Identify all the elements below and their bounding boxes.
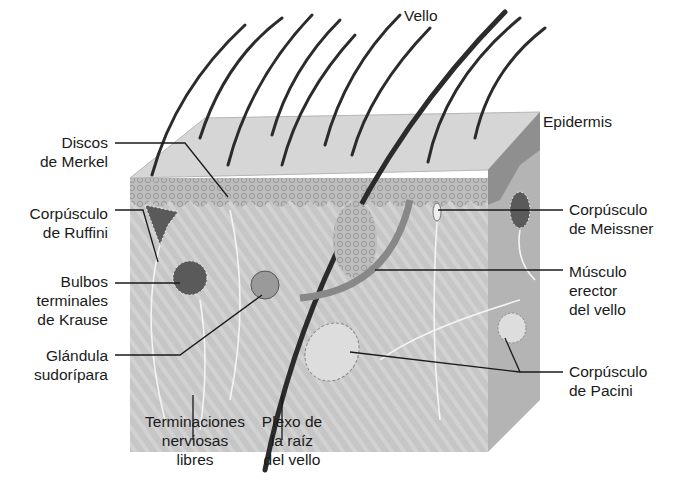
label-line: Plexo de <box>248 412 336 431</box>
skin-diagram <box>0 0 673 484</box>
label-line: Corpúsculo <box>569 362 647 381</box>
meissner-corpuscle-front <box>433 203 441 221</box>
label-pacini: Corpúsculo de Pacini <box>569 362 647 400</box>
label-line: de Meissner <box>569 219 653 238</box>
label-line: Músculo <box>569 262 627 281</box>
label-line: de Pacini <box>569 381 647 400</box>
krause-bulb <box>173 261 207 295</box>
label-musculo: Músculo erector del vello <box>569 262 627 319</box>
label-line: del vello <box>569 300 627 319</box>
label-line: Discos <box>0 133 108 152</box>
label-merkel: Discos de Merkel <box>0 133 108 171</box>
label-line: Vello <box>404 6 438 25</box>
label-line: de Ruffini <box>0 223 108 242</box>
label-line: Corpúsculo <box>0 204 108 223</box>
label-ruffini: Corpúsculo de Ruffini <box>0 204 108 242</box>
label-meissner: Corpúsculo de Meissner <box>569 200 653 238</box>
label-epidermis: Epidermis <box>543 112 612 131</box>
label-line: de Merkel <box>0 152 108 171</box>
label-line: sudorípara <box>0 365 108 384</box>
label-line: la raíz <box>248 431 336 450</box>
label-line: Glándula <box>0 346 108 365</box>
label-krause: Bulbos terminales de Krause <box>0 272 108 329</box>
label-line: terminales <box>0 291 108 310</box>
label-line: Bulbos <box>0 272 108 291</box>
label-line: erector <box>569 281 627 300</box>
label-plexo: Plexo de la raíz del vello <box>248 412 336 469</box>
label-vello: Vello <box>404 6 438 25</box>
sweat-gland <box>251 271 279 299</box>
label-line: Epidermis <box>543 112 612 131</box>
pacini-corpuscle-side <box>498 313 526 343</box>
label-line: de Krause <box>0 310 108 329</box>
label-line: Corpúsculo <box>569 200 653 219</box>
label-sudoripara: Glándula sudorípara <box>0 346 108 384</box>
label-line: del vello <box>248 450 336 469</box>
